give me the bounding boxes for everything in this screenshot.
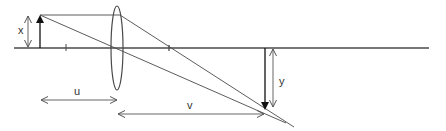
ray-through-center xyxy=(40,15,286,123)
object-height-label: x xyxy=(18,24,24,36)
ray-refracted-through-focus xyxy=(120,15,294,127)
lens-diagram: x y u v xyxy=(0,0,446,131)
diagram-svg: x y u v xyxy=(0,0,446,131)
image-distance-label: v xyxy=(187,99,193,111)
image-height-label: y xyxy=(279,75,285,87)
object-distance-label: u xyxy=(74,85,80,97)
